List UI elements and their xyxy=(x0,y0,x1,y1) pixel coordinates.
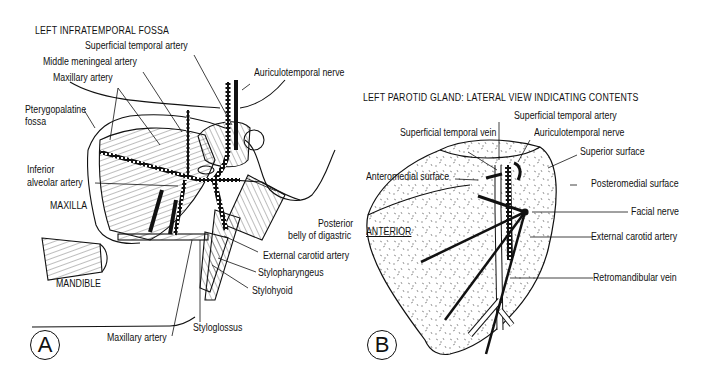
label-maxilla: MAXILLA xyxy=(50,200,87,211)
label-maxillary-artery-bottom: Maxillary artery xyxy=(107,332,167,343)
label-maxillary-artery-top: Maxillary artery xyxy=(53,72,113,83)
label-auriculotemporal-nerve-a: Auriculotemporal nerve xyxy=(254,67,344,78)
label-inferior-alveolar-1: Inferior xyxy=(27,164,54,175)
label-anteromedial-surface: Anteromedial surface xyxy=(366,171,449,182)
label-auriculotemporal-nerve-b: Auriculotemporal nerve xyxy=(534,127,624,138)
label-facial-nerve: Facial nerve xyxy=(631,206,679,217)
label-superficial-temporal-artery-b: Superficial temporal artery xyxy=(514,110,617,121)
label-superior-surface: Superior surface xyxy=(580,146,645,157)
label-styloglossus: Styloglossus xyxy=(193,322,242,333)
label-stylohyoid: Stylohyoid xyxy=(252,285,293,296)
label-posterior-belly-1: Posterior xyxy=(318,218,353,229)
label-retromandibular-vein: Retromandibular vein xyxy=(593,272,677,283)
label-external-carotid-artery-a: External carotid artery xyxy=(263,250,349,261)
label-external-carotid-artery-b: External carotid artery xyxy=(591,231,677,242)
label-anterior: ANTERIOR xyxy=(366,226,411,237)
panel-a-title: LEFT INFRATEMPORAL FOSSA xyxy=(35,25,169,36)
label-posterior-belly-2: belly of digastric xyxy=(288,230,351,241)
label-inferior-alveolar-2: alveolar artery xyxy=(27,177,83,188)
label-superficial-temporal-artery-a: Superficial temporal artery xyxy=(85,40,188,51)
label-middle-meningeal-artery: Middle meningeal artery xyxy=(43,56,137,67)
label-stylopharyngeus: Stylopharyngeus xyxy=(258,267,324,278)
panel-b-title: LEFT PAROTID GLAND: LATERAL VIEW INDICAT… xyxy=(363,92,639,103)
label-pterygopalatine-fossa-1: Pterygopalatine xyxy=(25,104,86,115)
panel-a-badge: A xyxy=(30,330,60,360)
label-superficial-temporal-vein: Superficial temporal vein xyxy=(400,127,496,138)
label-mandible: MANDIBLE xyxy=(56,278,101,289)
label-pterygopalatine-fossa-2: fossa xyxy=(25,116,46,127)
panel-b-badge: B xyxy=(367,330,397,360)
label-posteromedial-surface: Posteromedial surface xyxy=(591,178,679,189)
